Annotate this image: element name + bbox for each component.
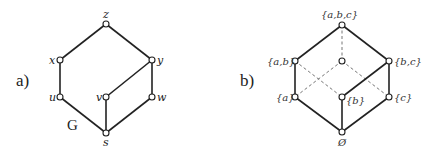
graph-name-label: G (67, 117, 78, 133)
edge-abc-ab (295, 25, 342, 61)
edge-z-y (106, 24, 152, 60)
label-abc: {a,b,c} (321, 9, 358, 20)
lattice-figure: a) G z x y u v w s (0, 0, 430, 153)
label-x: x (49, 54, 56, 67)
node-empty (339, 129, 345, 135)
node-w (149, 94, 155, 100)
panel-b-label: b) (240, 71, 254, 90)
label-ab: {a,b} (267, 56, 295, 67)
node-y (149, 57, 155, 63)
edge-z-x (60, 24, 106, 60)
node-b (339, 94, 345, 100)
node-u (57, 94, 63, 100)
label-z: z (102, 8, 109, 21)
panel-a-label: a) (16, 71, 29, 90)
edge-w-s (106, 97, 152, 133)
edge-abc-bc (342, 25, 389, 61)
panel-b-solid-edges (295, 25, 389, 132)
node-z (103, 21, 109, 27)
label-w: w (157, 91, 167, 104)
label-empty-set: Ø (337, 137, 347, 148)
edge-a-empty (295, 97, 342, 132)
node-x (57, 57, 63, 63)
node-c (386, 94, 392, 100)
label-u: u (49, 91, 56, 104)
label-bc: {b,c} (394, 56, 422, 67)
panel-b-node-labels: {a,b,c} {a,b} {b,c} {a} {b} {c} Ø (267, 9, 422, 148)
label-a: {a} (276, 92, 295, 103)
label-c: {c} (394, 92, 412, 103)
panel-a: a) G z x y u v w s (16, 8, 167, 149)
label-y: y (156, 54, 164, 67)
node-bc (386, 58, 392, 64)
label-v: v (96, 91, 103, 104)
node-abc (339, 22, 345, 28)
label-s: s (103, 136, 109, 149)
node-ac (339, 58, 345, 64)
node-v (103, 94, 109, 100)
panel-b: b) {a,b,c} (240, 9, 422, 148)
label-b: {b} (346, 95, 365, 106)
edge-y-v (106, 60, 152, 97)
